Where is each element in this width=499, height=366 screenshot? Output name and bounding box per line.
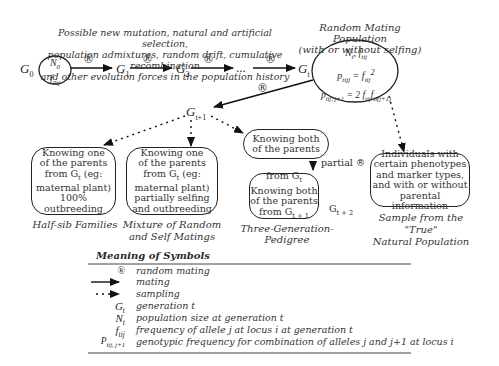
box-line: from Gt + 1 bbox=[259, 207, 309, 221]
random-mating-symbol: ® bbox=[83, 53, 94, 66]
random-mating-equations: Nt, ftij ptijj = ftij2 ptij, j+1 = 2 fti… bbox=[315, 45, 397, 106]
legend-row-genotypic-frequency: Ptij, j+1 genotypic frequency for combin… bbox=[90, 336, 410, 349]
box-line: of the parents bbox=[40, 158, 108, 169]
half-sib-caption: Half-sib Families bbox=[20, 219, 130, 230]
box-line: from Gt (eg: bbox=[143, 169, 201, 183]
box-line: from Gt (eg: bbox=[45, 169, 103, 183]
caption-line: population admixtures, random drift, cum… bbox=[40, 49, 290, 71]
legend: ® random mating mating sampling Gt gener… bbox=[90, 265, 410, 353]
genotypic-frequency-symbol: Ptij, j+1 bbox=[101, 336, 125, 348]
box-line: outbreeding bbox=[44, 204, 103, 215]
random-mating-symbol: ® bbox=[142, 53, 153, 66]
eq-population-size: Nt, ftij bbox=[315, 45, 397, 65]
g0-circle-contents: N0 f0ij bbox=[43, 57, 67, 89]
mixture-caption: Mixture of Random and Self Matings bbox=[120, 219, 224, 243]
sampling-arrow-half-sib bbox=[104, 116, 185, 145]
n0-label: N0 bbox=[43, 57, 67, 73]
legend-meaning: mating bbox=[136, 276, 170, 287]
partial-random-mating-label: partial ® bbox=[321, 157, 365, 168]
three-generation-caption: Three-Generation-Pedigree bbox=[222, 223, 352, 245]
box-line: of the parents bbox=[250, 196, 318, 207]
random-mating-symbol: ® bbox=[117, 265, 125, 276]
title-line: Random Mating Population bbox=[295, 22, 425, 44]
node-g1: G1 bbox=[116, 61, 129, 79]
legend-meaning: random mating bbox=[136, 265, 210, 276]
eq-heterozygote: ptij, j+1 = 2 ftijfti(j+1) bbox=[315, 88, 397, 106]
caption-line: Mixture of Random bbox=[120, 219, 224, 231]
box-line: of the parents bbox=[252, 144, 320, 155]
box-line: of the parents bbox=[138, 158, 206, 169]
legend-meaning: population size at generation t bbox=[136, 312, 284, 323]
random-mating-symbol: ® bbox=[203, 53, 214, 66]
natural-sample-box: Individuals with certain phenotypes and … bbox=[370, 153, 470, 207]
box-line: from Gt bbox=[266, 171, 302, 185]
box-line: parental information bbox=[371, 191, 469, 212]
both-parents-box: Knowing both of the parents bbox=[243, 129, 329, 159]
mixture-box: Knowing one of the parents from Gt (eg: … bbox=[126, 147, 218, 215]
random-mating-symbol: ® bbox=[257, 82, 268, 95]
box-line: and outbreeding bbox=[132, 204, 212, 215]
natural-sample-caption: Sample from the "True" Natural Populatio… bbox=[362, 212, 480, 248]
legend-meaning: genotypic frequency for combination of a… bbox=[136, 336, 454, 347]
caption-line: Sample from the "True" bbox=[362, 212, 480, 236]
box-line: certain phenotypes bbox=[374, 159, 467, 170]
evolution-forces-caption: Possible new mutation, natural and artif… bbox=[40, 27, 290, 82]
legend-meaning: generation t bbox=[136, 300, 195, 311]
legend-title: Meaning of Symbols bbox=[96, 250, 210, 261]
node-gt-plus-1: Gt+1 bbox=[186, 104, 206, 122]
random-mating-symbol: ® bbox=[265, 53, 276, 66]
node-gt: Gt bbox=[298, 61, 310, 79]
caption-line: and other evolution forces in the popula… bbox=[40, 71, 290, 82]
caption-line: Possible new mutation, natural and artif… bbox=[40, 27, 290, 49]
node-gt-plus-2: Gt + 2 bbox=[329, 203, 353, 217]
eq-homozygote: ptijj = ftij2 bbox=[315, 65, 397, 88]
half-sib-box: Knowing one of the parents from Gt (eg: … bbox=[31, 147, 116, 215]
node-g0: G0 bbox=[20, 61, 33, 79]
sampling-arrow-both-parents bbox=[211, 116, 243, 133]
box-line: and with or without bbox=[372, 180, 467, 191]
node-g2: G2 bbox=[176, 61, 189, 79]
caption-line: and Self Matings bbox=[120, 231, 224, 243]
three-generation-box: from Gt Knowing both of the parents from… bbox=[249, 173, 319, 219]
caption-line: Natural Population bbox=[362, 236, 480, 248]
legend-meaning: sampling bbox=[136, 288, 180, 299]
legend-meaning: frequency of allele j at locus i at gene… bbox=[136, 324, 353, 335]
f0ij-label: f0ij bbox=[43, 73, 67, 89]
node-ellipsis: ... bbox=[236, 60, 246, 76]
